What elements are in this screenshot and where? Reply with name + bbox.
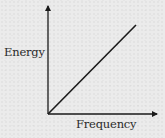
y-axis-label: Energy	[4, 45, 45, 59]
energy-frequency-chart: Energy Frequency	[0, 0, 165, 138]
energy-line	[48, 25, 136, 114]
x-axis-label: Frequency	[76, 117, 136, 131]
